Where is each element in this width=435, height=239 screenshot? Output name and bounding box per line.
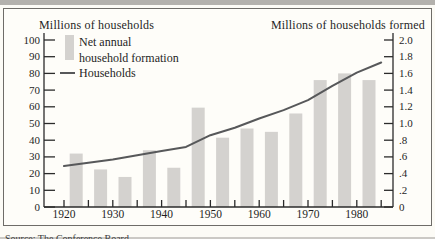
left-tick-label: 100 xyxy=(24,34,41,46)
right-tick-label: .4 xyxy=(399,167,408,179)
x-tick-label: 1970 xyxy=(297,208,320,220)
bar-1927 xyxy=(94,169,107,207)
x-tick-label: 1950 xyxy=(199,208,222,220)
x-tick-label: 1920 xyxy=(53,208,76,220)
bar-1952 xyxy=(216,138,229,207)
bar-1982 xyxy=(363,80,376,207)
bar-1967 xyxy=(289,113,302,207)
bar-1977 xyxy=(338,73,351,207)
x-tick-label: 1940 xyxy=(150,208,173,220)
right-tick-label: 0 xyxy=(399,201,405,213)
left-tick-label: 30 xyxy=(29,150,41,162)
right-tick-label: .8 xyxy=(399,134,408,146)
bar-1947 xyxy=(192,108,205,207)
right-tick-label: 1.0 xyxy=(399,117,413,129)
chart-canvas: 01020304050607080901000.2.4.6.81.01.21.4… xyxy=(4,9,431,225)
bar-1962 xyxy=(265,132,278,207)
right-tick-label: 1.4 xyxy=(399,84,413,96)
bar-1942 xyxy=(167,168,180,207)
x-tick-label: 1930 xyxy=(101,208,124,220)
left-tick-label: 20 xyxy=(29,167,41,179)
right-tick-label: .2 xyxy=(399,184,407,196)
right-tick-label: 2.0 xyxy=(399,34,413,46)
bar-1932 xyxy=(119,177,132,207)
x-tick-label: 1960 xyxy=(248,208,271,220)
bar-1957 xyxy=(241,129,254,207)
left-tick-label: 80 xyxy=(29,67,41,79)
top-rule xyxy=(0,0,435,5)
right-tick-label: 1.8 xyxy=(399,50,413,62)
source-note: Source: The Conference Board xyxy=(5,233,129,239)
right-tick-label: .6 xyxy=(399,150,408,162)
left-tick-label: 40 xyxy=(29,134,41,146)
left-tick-label: 70 xyxy=(29,84,41,96)
right-tick-label: 1.2 xyxy=(399,100,413,112)
bar-1972 xyxy=(314,80,327,207)
right-tick-label: 1.6 xyxy=(399,67,413,79)
bar-1937 xyxy=(143,150,156,207)
left-tick-label: 10 xyxy=(29,184,41,196)
left-tick-label: 50 xyxy=(29,117,41,129)
left-tick-label: 90 xyxy=(29,50,41,62)
bar-1922 xyxy=(70,154,83,207)
left-tick-label: 60 xyxy=(29,100,41,112)
chart-figure: Millions of households Millions of house… xyxy=(3,8,432,226)
x-tick-label: 1980 xyxy=(345,208,368,220)
left-tick-label: 0 xyxy=(35,201,41,213)
